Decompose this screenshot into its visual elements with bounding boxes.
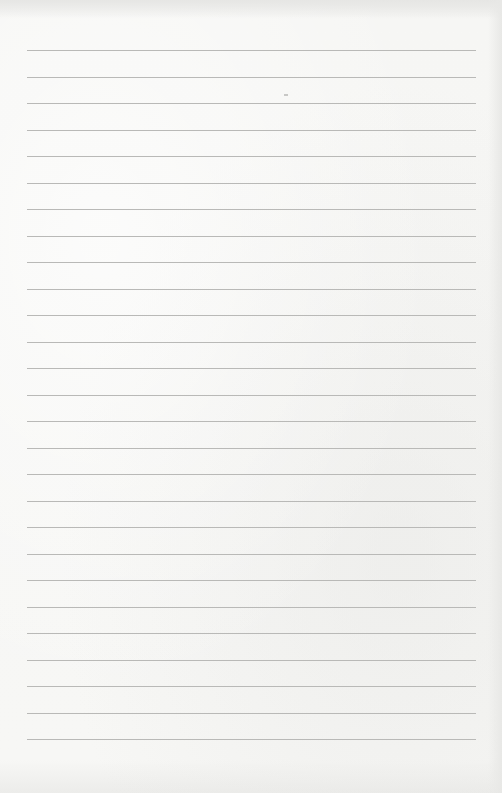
ruled-line [27,289,476,290]
ruled-line [27,554,476,555]
ruled-line [27,262,476,263]
lined-paper-sheet [0,0,502,793]
ruled-line [27,130,476,131]
ruled-line [27,713,476,714]
ruled-line [27,686,476,687]
ruled-line [27,315,476,316]
ruled-line [27,474,476,475]
paper-speck [284,94,288,96]
ruled-line [27,448,476,449]
ruled-line [27,580,476,581]
ruled-line [27,421,476,422]
ruled-line [27,77,476,78]
ruled-line [27,50,476,51]
ruled-line [27,739,476,740]
paper-top-shading [0,0,502,18]
paper-right-shading [488,0,502,793]
ruled-line [27,156,476,157]
ruled-line [27,527,476,528]
ruled-line [27,501,476,502]
ruled-line [27,103,476,104]
ruled-line [27,633,476,634]
ruled-line [27,209,476,210]
ruled-line [27,342,476,343]
ruled-line [27,660,476,661]
ruled-line [27,236,476,237]
ruled-line [27,183,476,184]
ruled-line [27,395,476,396]
ruled-line [27,368,476,369]
ruled-line [27,607,476,608]
